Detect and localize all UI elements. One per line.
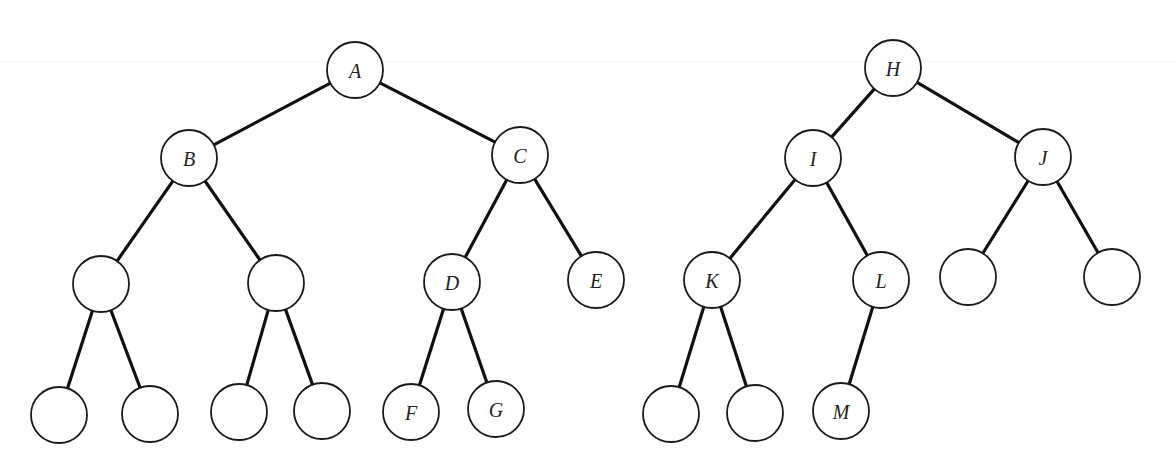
edges-layer xyxy=(68,82,1098,388)
edge-a-c xyxy=(380,83,495,142)
edge-h-i xyxy=(832,89,875,137)
node-circle xyxy=(1084,249,1140,305)
tree-node-j2 xyxy=(1084,249,1140,305)
edge-a-b xyxy=(214,83,331,145)
tree-node-e: E xyxy=(568,252,624,308)
edge-b2-b2r xyxy=(285,309,312,384)
edge-j-j1 xyxy=(983,181,1028,254)
tree-node-m: M xyxy=(813,383,869,439)
node-circle xyxy=(31,387,87,443)
tree-node-b2l xyxy=(211,384,267,440)
tree-node-h: H xyxy=(865,40,921,96)
node-circle xyxy=(643,386,699,442)
node-label: B xyxy=(183,148,195,170)
node-circle xyxy=(940,249,996,305)
edge-i-k xyxy=(730,180,795,259)
node-label: E xyxy=(589,270,602,292)
tree-node-j: J xyxy=(1015,129,1071,185)
node-label: M xyxy=(832,401,851,423)
tree-node-b1 xyxy=(73,256,129,312)
edge-j-j2 xyxy=(1057,181,1098,252)
node-label: A xyxy=(347,60,362,82)
edge-h-j xyxy=(917,82,1019,142)
right-tree-edges xyxy=(679,82,1098,387)
node-label: F xyxy=(404,402,418,424)
tree-node-b1l xyxy=(31,387,87,443)
right-tree-nodes: HIJKLM xyxy=(643,40,1140,442)
node-label: D xyxy=(444,272,460,294)
tree-node-f: F xyxy=(383,384,439,440)
node-label: K xyxy=(704,270,720,292)
node-label: H xyxy=(885,58,902,80)
node-circle xyxy=(211,384,267,440)
node-circle xyxy=(727,385,783,441)
edge-d-g xyxy=(461,308,487,382)
left-tree-edges xyxy=(68,83,582,389)
edge-b2-b2l xyxy=(247,310,269,385)
edge-b1-b1l xyxy=(68,311,93,389)
tree-node-k1 xyxy=(643,386,699,442)
nodes-layer: ABCDEFGHIJKLM xyxy=(31,40,1140,443)
edge-i-l xyxy=(827,182,868,255)
edge-c-d xyxy=(465,180,507,258)
left-tree-nodes: ABCDEFG xyxy=(31,42,624,443)
edge-b-b1 xyxy=(117,181,173,261)
edge-k-k1 xyxy=(679,307,704,387)
tree-diagram: ABCDEFGHIJKLM xyxy=(0,0,1176,474)
edge-c-e xyxy=(535,179,582,256)
node-label: C xyxy=(513,145,527,167)
node-label: G xyxy=(489,399,504,421)
tree-node-l: L xyxy=(853,252,909,308)
node-label: J xyxy=(1039,147,1049,169)
node-circle xyxy=(248,255,304,311)
tree-node-b1r xyxy=(122,386,178,442)
edge-b1-b1r xyxy=(111,310,140,388)
edge-k-k2 xyxy=(721,307,747,387)
tree-node-b: B xyxy=(161,130,217,186)
tree-node-c: C xyxy=(492,127,548,183)
tree-node-a: A xyxy=(327,42,383,98)
tree-node-i: I xyxy=(785,130,841,186)
tree-node-d: D xyxy=(424,254,480,310)
node-label: L xyxy=(874,270,886,292)
tree-node-j1 xyxy=(940,249,996,305)
tree-node-g: G xyxy=(468,381,524,437)
node-label: I xyxy=(809,148,818,170)
edge-b-b2 xyxy=(205,181,260,260)
node-circle xyxy=(73,256,129,312)
node-circle xyxy=(122,386,178,442)
tree-node-b2r xyxy=(294,383,350,439)
edge-l-m xyxy=(849,307,873,384)
edge-d-f xyxy=(419,309,443,386)
tree-node-k: K xyxy=(684,252,740,308)
tree-node-k2 xyxy=(727,385,783,441)
node-circle xyxy=(294,383,350,439)
tree-node-b2 xyxy=(248,255,304,311)
